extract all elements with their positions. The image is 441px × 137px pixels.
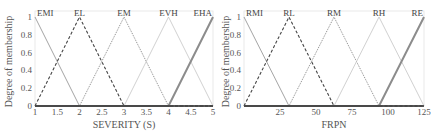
- x-axis-label: FRPN: [321, 119, 346, 130]
- y-tick-label: 1: [28, 12, 33, 22]
- x-tick-label: 100: [381, 107, 395, 117]
- series-label-emi: EMI: [37, 8, 54, 18]
- y-tick-label: 0: [237, 101, 242, 111]
- series-label-rl: RL: [283, 8, 295, 18]
- y-axis-label: Degree of membership: [220, 16, 231, 108]
- y-tick-label: 0.4: [230, 65, 242, 75]
- frpn-membership-chart: 00.20.40.60.81255075100125FRPNDegree of …: [220, 8, 431, 130]
- x-tick-label: 5: [211, 107, 216, 117]
- series-line-eha: [35, 17, 213, 106]
- series-line-rh: [244, 17, 424, 106]
- y-tick-label: 0.4: [21, 65, 33, 75]
- plot-frame: [35, 11, 213, 106]
- y-tick-label: 0.8: [230, 30, 242, 40]
- series-line-re: [244, 17, 424, 106]
- x-tick-label: 50: [312, 107, 322, 117]
- x-tick-label: 3.5: [141, 107, 153, 117]
- series-line-el: [35, 17, 213, 106]
- series-line-em: [35, 17, 213, 106]
- series-line-evh: [35, 17, 213, 106]
- x-tick-label: 3: [122, 107, 127, 117]
- y-tick-label: 0.8: [21, 30, 33, 40]
- x-tick-label: 1: [33, 107, 38, 117]
- series-label-rh: RH: [373, 8, 386, 18]
- severity-membership-chart: 00.20.40.60.8111.522.533.544.55SEVERITY …: [3, 8, 216, 131]
- x-tick-label: 25: [276, 107, 286, 117]
- series-label-el: EL: [74, 8, 85, 18]
- x-tick-label: 4: [166, 107, 171, 117]
- x-tick-label: 125: [417, 107, 431, 117]
- series-line-rm: [244, 17, 424, 106]
- plot-frame: [244, 11, 424, 106]
- series-line-rmi: [244, 17, 424, 106]
- x-tick-label: 2.5: [96, 107, 108, 117]
- series-label-evh: EVH: [159, 8, 178, 18]
- series-label-em: EM: [117, 8, 131, 18]
- series-line-rl: [244, 17, 424, 106]
- y-tick-label: 0.6: [21, 48, 33, 58]
- series-label-rm: RM: [327, 8, 341, 18]
- x-tick-label: 2: [77, 107, 82, 117]
- series-label-re: RE: [411, 8, 423, 18]
- y-tick-label: 0.2: [21, 83, 32, 93]
- series-label-eha: EHA: [194, 8, 213, 18]
- y-axis-label: Degree of membership: [3, 16, 14, 108]
- membership-function-charts: 00.20.40.60.8111.522.533.544.55SEVERITY …: [0, 0, 441, 137]
- y-tick-label: 0.6: [230, 48, 242, 58]
- x-tick-label: 1.5: [52, 107, 64, 117]
- series-line-emi: [35, 17, 213, 106]
- x-tick-label: 4.5: [185, 107, 197, 117]
- series-label-rmi: RMI: [246, 8, 263, 18]
- x-tick-label: 75: [348, 107, 358, 117]
- x-axis-label: SEVERITY (S): [93, 119, 156, 131]
- y-tick-label: 0.2: [230, 83, 241, 93]
- y-tick-label: 1: [237, 12, 242, 22]
- y-tick-label: 0: [28, 101, 33, 111]
